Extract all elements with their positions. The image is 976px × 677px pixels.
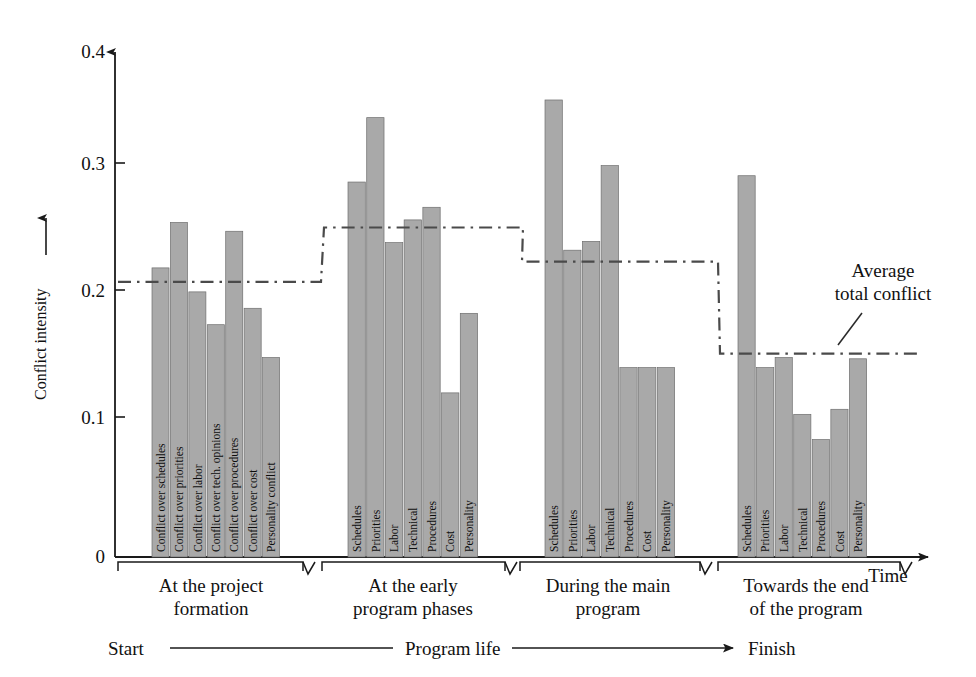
- group-caption-line-1: Towards the end: [743, 575, 869, 596]
- bar: [348, 182, 365, 557]
- bar: [582, 241, 599, 557]
- annotation-leader-line: [838, 313, 862, 345]
- annotation-line-1: Average: [852, 260, 915, 281]
- bar-category-label: Labor: [585, 524, 597, 552]
- timeline-finish-label: Finish: [748, 638, 796, 659]
- timeline-middle-label: Program life: [405, 638, 501, 659]
- bar: [639, 368, 656, 557]
- group-caption-line-1: At the project: [159, 575, 264, 596]
- bar-group-2: SchedulesPrioritiesLaborTechnicalProcedu…: [348, 118, 478, 557]
- bar-category-label: Conflict over cost: [247, 469, 259, 552]
- axis-break-mark: [700, 562, 712, 574]
- bar-category-label: Personality: [852, 500, 865, 552]
- y-tick-label-0.1: 0.1: [81, 407, 105, 428]
- group-bracket-3: [520, 562, 700, 571]
- bar-category-label: Procedures: [815, 500, 827, 552]
- bar-category-label: Priorities: [567, 509, 579, 552]
- bar-category-label: Procedures: [623, 500, 635, 552]
- group-bracket-1: [118, 562, 303, 571]
- bar-category-label: Technical: [407, 507, 419, 552]
- bar-category-label: Priorities: [370, 509, 382, 552]
- bar-category-label: Technical: [797, 507, 809, 552]
- bar-category-label: Personality: [463, 500, 476, 552]
- group-caption-line-2: of the program: [750, 598, 863, 619]
- bar-category-label: Procedures: [426, 500, 438, 552]
- conflict-intensity-chart: 0.4 0.3 0.2 0.1 0 Conflict intensity Tim…: [0, 0, 976, 677]
- bar: [367, 118, 384, 557]
- timeline-start-label: Start: [108, 638, 145, 659]
- group-caption-line-2: program: [576, 598, 641, 619]
- y-tick-label-0.3: 0.3: [81, 153, 105, 174]
- bar-category-label: Conflict over schedules: [155, 443, 167, 552]
- bar-category-label: Cost: [444, 530, 456, 552]
- group-captions: At the projectformationAt the earlyprogr…: [159, 575, 869, 619]
- plot-layer: Conflict over schedulesConflict over pri…: [118, 100, 922, 557]
- y-axis-title-group: Conflict intensity: [32, 218, 50, 400]
- bar-group-3: SchedulesPrioritiesLaborTechnicalProcedu…: [545, 100, 675, 557]
- bar-category-label: Schedules: [548, 505, 560, 552]
- bar-category-label: Schedules: [351, 505, 363, 552]
- group-caption-line-2: program phases: [353, 598, 473, 619]
- bar-category-label: Labor: [778, 524, 790, 552]
- bar-category-label: Conflict over priorities: [173, 446, 186, 552]
- group-brackets: [118, 562, 912, 574]
- y-tick-label-0.4: 0.4: [81, 41, 105, 62]
- bar-category-label: Conflict over tech. opinions: [210, 423, 223, 552]
- bar-category-label: Personality conflict: [265, 461, 278, 552]
- bar-category-label: Schedules: [741, 505, 753, 552]
- y-tick-label-0: 0: [96, 546, 106, 567]
- bar: [385, 243, 402, 557]
- annotation-line-2: total conflict: [835, 283, 932, 304]
- group-caption-line-2: formation: [174, 598, 249, 619]
- y-axis-title: Conflict intensity: [32, 288, 50, 400]
- group-caption-line-1: During the main: [546, 575, 671, 596]
- bar: [545, 100, 562, 557]
- bar-category-label: Cost: [641, 530, 653, 552]
- program-life-timeline: Start Program life Finish: [108, 638, 796, 659]
- chart-canvas: 0.4 0.3 0.2 0.1 0 Conflict intensity Tim…: [0, 0, 976, 677]
- bar-group-4: SchedulesPrioritiesLaborTechnicalProcedu…: [738, 176, 867, 557]
- bar-category-label: Personality: [660, 500, 673, 552]
- bar: [601, 166, 618, 557]
- bar-category-label: Labor: [388, 524, 400, 552]
- bar-category-label: Cost: [834, 530, 846, 552]
- axis-break-mark: [303, 562, 315, 574]
- bar-category-label: Priorities: [759, 509, 771, 552]
- bar-category-label: Conflict over labor: [192, 464, 204, 552]
- group-bracket-2: [322, 562, 505, 571]
- bar-group-1: Conflict over schedulesConflict over pri…: [152, 222, 280, 557]
- group-caption-line-1: At the early: [368, 575, 458, 596]
- bar-category-label: Conflict over procedures: [228, 437, 241, 552]
- bar-category-label: Technical: [604, 507, 616, 552]
- bar: [738, 176, 755, 557]
- bar: [404, 220, 421, 557]
- y-tick-label-0.2: 0.2: [81, 280, 105, 301]
- average-total-conflict-annotation: Average total conflict: [835, 260, 932, 345]
- y-axis-ticks: 0.4 0.3 0.2 0.1 0: [81, 41, 125, 567]
- axis-break-mark: [505, 562, 517, 574]
